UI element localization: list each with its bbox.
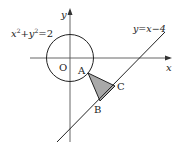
line-equation: y=x−4 bbox=[132, 23, 166, 34]
x-axis-label: x bbox=[166, 62, 172, 73]
circle-equation: x2+y2=2 bbox=[11, 27, 53, 39]
origin-label: O bbox=[59, 62, 67, 73]
point-a-label: A bbox=[77, 65, 86, 76]
y-axis-arrow-icon bbox=[68, 8, 73, 15]
diagram-canvas: y x O x2+y2=2 y=x−4 A B C bbox=[0, 0, 184, 148]
point-b-label: B bbox=[94, 104, 101, 115]
point-c-label: C bbox=[117, 81, 125, 92]
y-axis-label: y bbox=[60, 9, 67, 20]
x-axis-arrow-icon bbox=[165, 56, 172, 61]
line-y-eq-x-minus-4 bbox=[57, 32, 165, 142]
